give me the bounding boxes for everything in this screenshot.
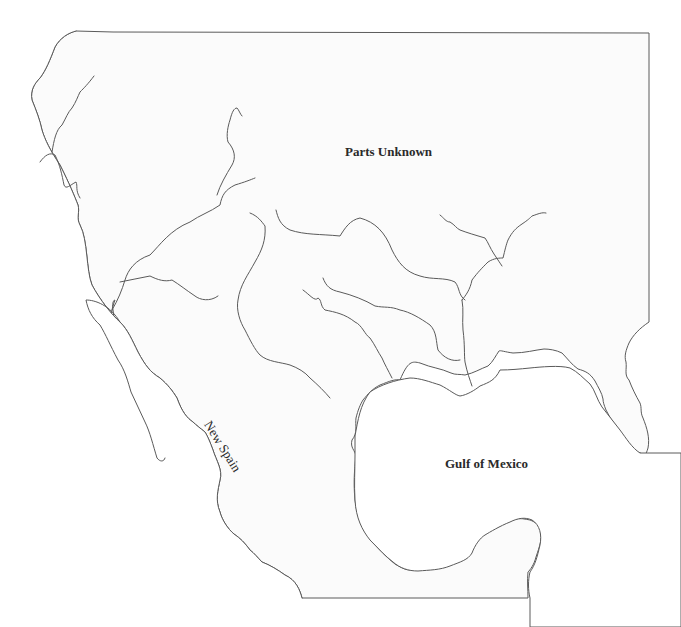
map: Parts Unknown New Spain Gulf of Mexico — [0, 0, 681, 627]
map-outline-svg — [0, 0, 681, 627]
label-gulf-of-mexico: Gulf of Mexico — [445, 456, 528, 472]
label-parts-unknown: Parts Unknown — [345, 144, 432, 160]
